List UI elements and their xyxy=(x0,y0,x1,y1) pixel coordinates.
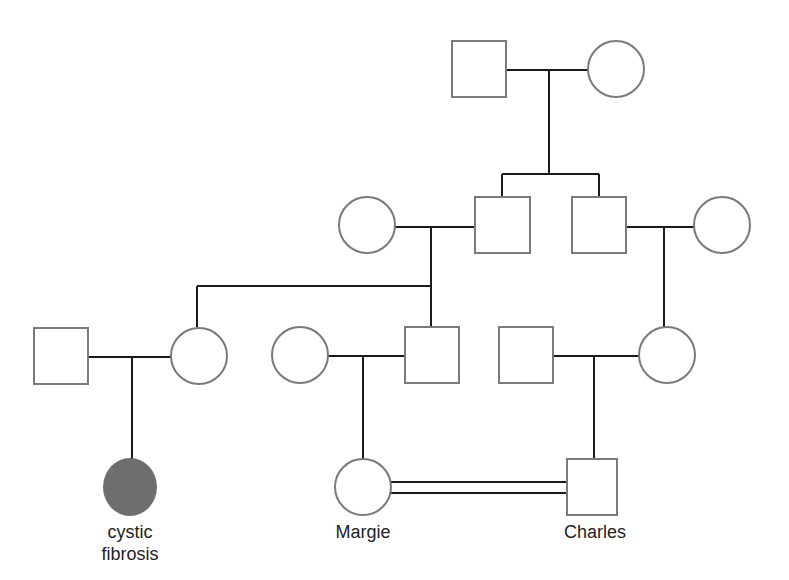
female-symbol xyxy=(171,328,227,384)
female-symbol-margie xyxy=(335,459,391,515)
male-symbol xyxy=(34,328,88,384)
label-charles: Charles xyxy=(550,521,640,543)
connector-lines xyxy=(88,70,694,493)
male-symbol xyxy=(405,327,459,383)
male-symbol-charles xyxy=(567,459,617,515)
male-symbol xyxy=(572,197,626,253)
male-symbol xyxy=(499,327,553,383)
label-affected-child: cystic fibrosis xyxy=(90,521,170,565)
male-symbol xyxy=(452,41,506,97)
label-margie: Margie xyxy=(318,521,408,543)
female-symbol xyxy=(639,327,695,383)
pedigree-diagram: cystic fibrosis Margie Charles xyxy=(0,0,789,580)
affected-female-symbol xyxy=(103,458,157,516)
female-symbol xyxy=(588,41,644,97)
label-fibrosis: fibrosis xyxy=(90,543,170,565)
female-symbol xyxy=(694,197,750,253)
female-symbol xyxy=(272,327,328,383)
pedigree-chart xyxy=(0,0,789,580)
male-symbol xyxy=(475,197,530,253)
label-cystic: cystic xyxy=(90,521,170,543)
female-symbol xyxy=(339,197,395,253)
